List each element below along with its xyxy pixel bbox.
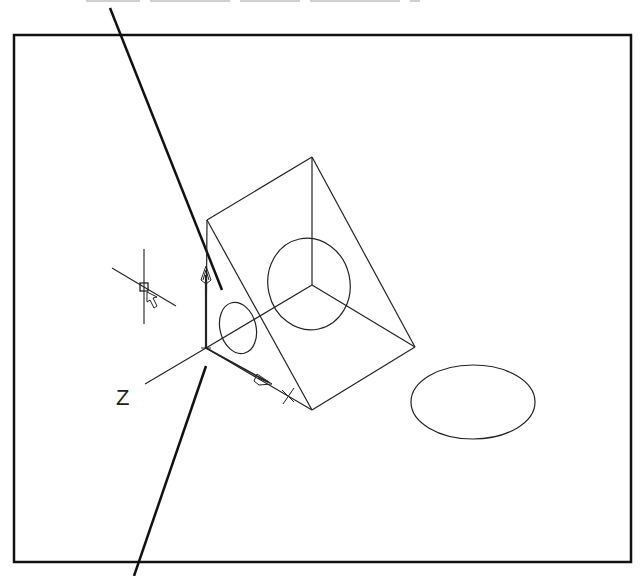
drawing-canvas: Z [0, 0, 640, 576]
cropped-caption-text [90, 0, 450, 4]
crosshair-cursor [112, 249, 176, 324]
wedge-wireframe [206, 157, 415, 410]
bottom-leader-line [134, 366, 206, 576]
large-face-hole [259, 230, 358, 337]
z-axis-label: Z [116, 385, 129, 410]
floor-ellipse [411, 365, 535, 439]
viewport-frame [14, 35, 631, 562]
cad-figure: Z [0, 0, 640, 576]
top-leader-line [110, 8, 222, 290]
